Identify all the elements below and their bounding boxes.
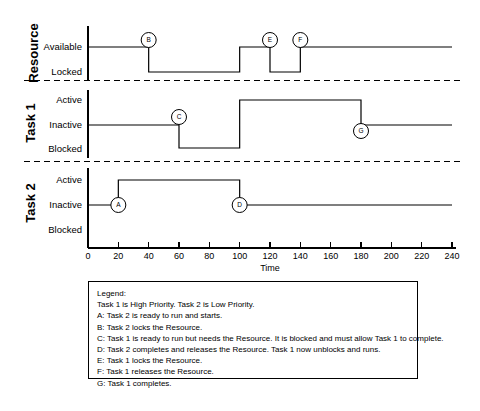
legend-heading: Legend: <box>97 288 417 299</box>
axis-title-time: Time <box>220 263 320 273</box>
state-label-available: Available <box>20 42 82 52</box>
event-marker-label: B <box>139 36 159 44</box>
legend-line: B: Task 2 locks the Resource. <box>97 322 417 333</box>
legend-box: Legend: Task 1 is High Priority. Task 2 … <box>88 281 418 379</box>
waveform-resource <box>88 47 452 72</box>
event-marker-label: F <box>290 36 310 44</box>
state-label-locked: Locked <box>20 67 82 77</box>
event-marker-label: D <box>230 201 250 209</box>
event-marker-label: C <box>169 113 189 121</box>
state-label-task1-active: Active <box>20 95 82 105</box>
state-label-task2-blocked: Blocked <box>20 225 82 235</box>
legend-line: E: Task 1 locks the Resource. <box>97 355 417 366</box>
state-label-task2-inactive: Inactive <box>20 200 82 210</box>
state-label-task1-inactive: Inactive <box>20 120 82 130</box>
timing-diagram: Resource Task 1 Task 2 Available Locked … <box>0 0 480 411</box>
event-marker-label: G <box>351 127 371 135</box>
legend-line: Task 1 is High Priority. Task 2 is Low P… <box>97 299 417 310</box>
waveform-task1 <box>88 100 452 148</box>
legend-line: F: Task 1 releases the Resource. <box>97 366 417 377</box>
state-label-task2-active: Active <box>20 175 82 185</box>
state-label-task1-blocked: Blocked <box>20 144 82 154</box>
event-marker-label: E <box>260 36 280 44</box>
legend-line: A: Task 2 is ready to run and starts. <box>97 310 417 321</box>
legend-line: C: Task 1 is ready to run but needs the … <box>97 333 417 344</box>
legend-line: D: Task 2 completes and releases the Res… <box>97 344 417 355</box>
event-marker-label: A <box>108 201 128 209</box>
legend-line: G: Task 1 completes. <box>97 378 417 389</box>
axis-tick-label: 240 <box>432 251 472 261</box>
waveform-task2 <box>88 180 452 205</box>
